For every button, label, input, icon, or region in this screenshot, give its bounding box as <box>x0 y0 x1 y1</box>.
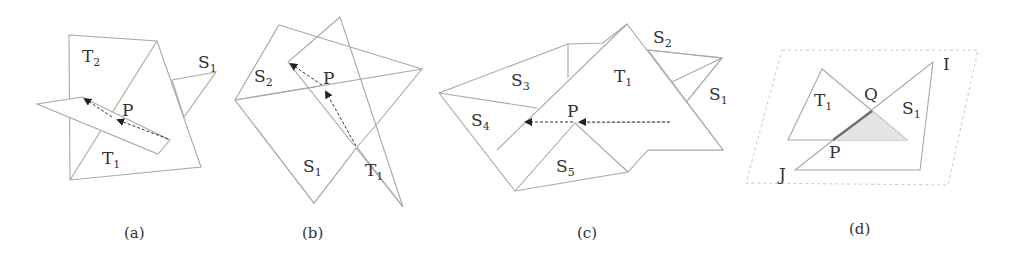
label-p: P <box>829 142 840 162</box>
label-p: P <box>567 101 578 121</box>
caption-c: (c) <box>577 224 597 242</box>
label-j: J <box>777 164 786 184</box>
caption-a: (a) <box>124 224 145 242</box>
outer-shape <box>439 24 723 191</box>
label-t1: T1 <box>814 90 832 113</box>
panel-c: S2 S3 T1 S1 S4 P S5 (c) <box>439 24 728 242</box>
triangle-intersection-figure: T2 S1 P T1 (a) S2 P S1 T1 (b) S2 S3 <box>0 0 1011 257</box>
label-s2: S2 <box>653 27 672 50</box>
label-i: I <box>943 54 950 74</box>
label-s1: S1 <box>709 84 728 107</box>
panel-a: T2 S1 P T1 (a) <box>37 35 217 242</box>
panel-b: S2 P S1 T1 (b) <box>235 17 422 242</box>
label-t1: T1 <box>365 160 383 183</box>
label-q: Q <box>864 84 878 104</box>
panel-d: I T1 Q S1 P J (d) <box>746 50 978 238</box>
label-p: P <box>122 100 133 120</box>
caption-d: (d) <box>849 220 870 238</box>
label-s1: S1 <box>198 52 217 75</box>
label-p: P <box>323 68 334 88</box>
caption-b: (b) <box>302 224 323 242</box>
